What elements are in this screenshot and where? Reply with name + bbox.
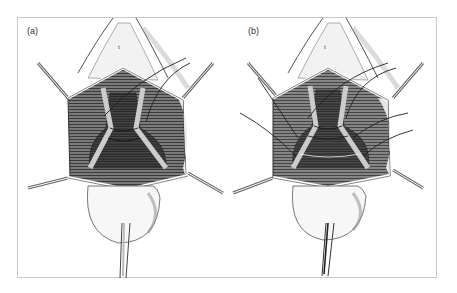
panel-a: (a) t (18, 18, 228, 279)
surgical-illustration-a (18, 18, 228, 279)
panel-b-tag: t (324, 43, 326, 51)
panel-a-label: (a) (27, 26, 38, 36)
panel-a-tag: t (118, 43, 120, 51)
panel-b-label: (b) (248, 26, 259, 36)
panel-b: (b) t (228, 18, 438, 279)
figure-frame: (a) t (17, 17, 437, 278)
surgical-illustration-b (228, 18, 438, 279)
